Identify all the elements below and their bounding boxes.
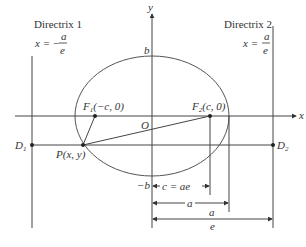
focus-f1-label: F1(−c, 0): [82, 100, 124, 114]
directrix-1-eq-num: a: [61, 30, 67, 42]
point-d1: [30, 143, 34, 147]
x-axis-label: x: [298, 109, 304, 121]
directrix-1-title: Directrix 1: [34, 18, 82, 30]
directrix-2-eq-den: e: [263, 44, 268, 56]
directrix-2-eq-lhs: x =: [242, 37, 258, 49]
focus-f1-point: [93, 114, 97, 118]
directrix-1-eq-lhs: x = −: [34, 37, 60, 49]
label-b: b: [144, 44, 150, 56]
focus-f2-point: [208, 114, 212, 118]
y-axis-label: y: [147, 1, 153, 13]
dimension-a-over-e-den: e: [210, 220, 215, 232]
dimension-a-label: a: [187, 197, 193, 209]
point-d1-label: D1: [14, 139, 26, 153]
ellipse-directrix-diagram: Directrix 1 x = − a e Directrix 2 x = a …: [0, 0, 306, 247]
directrix-2-title: Directrix 2: [224, 18, 272, 30]
directrix-2-eq-num: a: [264, 30, 270, 42]
segment-pf1: [83, 116, 95, 145]
focus-f2-label: F2(c, 0): [191, 100, 226, 114]
dimension-c-label: c = ae: [162, 180, 190, 192]
point-p: [81, 143, 85, 147]
label-neg-b: −b: [137, 179, 150, 191]
directrix-1-eq-den: e: [60, 44, 65, 56]
point-p-label: P(x, y): [55, 148, 86, 161]
point-d2: [271, 143, 275, 147]
dimension-a-over-e-num: a: [209, 206, 215, 218]
point-d2-label: D2: [276, 139, 289, 153]
origin-label: O: [141, 119, 149, 131]
